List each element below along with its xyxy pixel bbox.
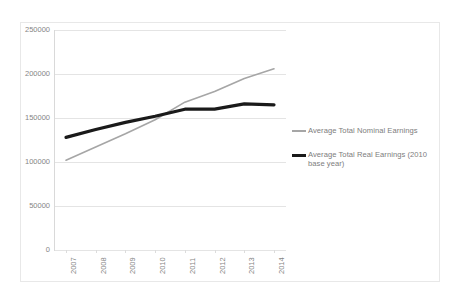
legend-label-real: Average Total Real Earnings (2010 base y… bbox=[308, 150, 434, 169]
x-axis-tick-label: 2010 bbox=[159, 257, 167, 274]
x-axis-tick-mark bbox=[215, 250, 216, 253]
legend-swatch-nominal-icon bbox=[292, 130, 306, 132]
x-axis-tick-mark bbox=[125, 250, 126, 253]
x-axis-tick-label: 2013 bbox=[248, 257, 256, 274]
x-axis-tick-label: 2014 bbox=[278, 257, 286, 274]
series-line-nominal bbox=[66, 69, 274, 161]
x-axis-tick-mark bbox=[244, 250, 245, 253]
x-axis-tick-mark bbox=[96, 250, 97, 253]
x-axis-tick-mark bbox=[155, 250, 156, 253]
x-axis-tick-label: 2009 bbox=[129, 257, 137, 274]
x-axis-tick-mark bbox=[274, 250, 275, 253]
chart-container: 050000100000150000200000250000 Average T… bbox=[0, 0, 452, 298]
x-axis-tick-mark bbox=[185, 250, 186, 253]
legend-item-real[interactable]: Average Total Real Earnings (2010 base y… bbox=[292, 150, 434, 169]
x-axis-tick-label: 2007 bbox=[70, 257, 78, 274]
legend-swatch-real-icon bbox=[292, 154, 306, 157]
x-axis-tick-label: 2012 bbox=[219, 257, 227, 274]
chart-legend: Average Total Nominal Earnings Average T… bbox=[292, 126, 434, 183]
legend-label-nominal: Average Total Nominal Earnings bbox=[308, 126, 418, 136]
legend-item-nominal[interactable]: Average Total Nominal Earnings bbox=[292, 126, 434, 136]
series-line-real bbox=[66, 104, 274, 137]
x-axis-tick-label: 2011 bbox=[189, 258, 197, 274]
x-axis-tick-label: 2008 bbox=[100, 257, 108, 274]
x-axis-tick-mark bbox=[66, 250, 67, 253]
